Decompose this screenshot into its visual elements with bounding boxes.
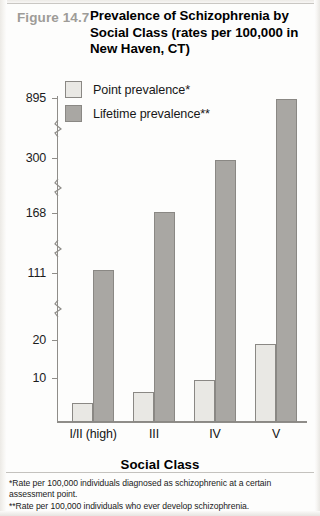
bar-lifetime-IV (215, 160, 236, 422)
y-tick-mark-300 (52, 158, 58, 159)
footnote-lifetime-prevalence: **Rate per 100,000 individuals who ever … (9, 501, 311, 512)
axis-break-icon-upper (52, 120, 63, 137)
x-axis-title: Social Class (0, 457, 320, 472)
y-tick-mark-20 (52, 340, 58, 341)
y-tick-label-895: 895 (2, 91, 46, 105)
legend-label-lifetime: Lifetime prevalence** (93, 107, 210, 121)
footnote-point-prevalence: *Rate per 100,000 individuals diagnosed … (9, 478, 311, 499)
bar-point-V (255, 344, 276, 422)
bar-point-III (133, 392, 154, 422)
y-axis-line (57, 96, 58, 422)
legend-swatch-lifetime-icon (65, 105, 82, 122)
y-tick-label-300: 300 (2, 151, 46, 165)
footnotes-block: *Rate per 100,000 individuals diagnosed … (9, 478, 311, 514)
axis-break-icon-lower2 (52, 240, 63, 257)
legend-label-point: Point prevalence* (93, 83, 190, 97)
bar-lifetime-III (154, 212, 175, 422)
chart-plot-area: 895 300 168 111 20 10 Point prevalence* (0, 0, 320, 516)
x-tick-label-V: V (236, 427, 316, 441)
y-tick-mark-10 (52, 378, 58, 379)
y-tick-mark-111 (52, 273, 58, 274)
axis-break-icon-lower (52, 300, 63, 317)
legend-swatch-point-icon (65, 81, 82, 98)
y-tick-label-10: 10 (2, 371, 46, 385)
y-tick-mark-168 (52, 213, 58, 214)
legend-item-point-prevalence: Point prevalence* (65, 81, 190, 98)
axis-break-icon-middle (52, 179, 63, 196)
y-tick-label-20: 20 (2, 333, 46, 347)
legend-item-lifetime-prevalence: Lifetime prevalence** (65, 105, 210, 122)
bar-lifetime-I-II (93, 270, 114, 422)
y-tick-mark-895 (52, 98, 58, 99)
bar-point-I-II (72, 403, 93, 422)
y-tick-label-111: 111 (2, 266, 46, 280)
bar-lifetime-V (276, 99, 297, 422)
y-tick-label-168: 168 (2, 206, 46, 220)
bar-point-IV (194, 380, 215, 422)
footnote-divider (6, 472, 314, 473)
figure-card: Figure 14.7 Prevalence of Schizophrenia … (0, 0, 320, 516)
